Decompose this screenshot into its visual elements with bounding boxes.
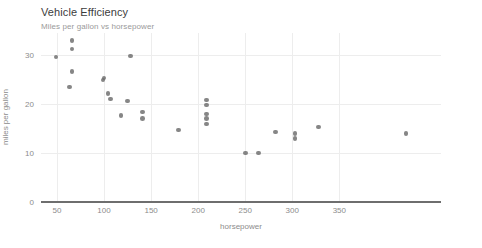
x-tick-label: 50	[53, 206, 62, 215]
data-point	[108, 97, 113, 102]
data-point	[128, 54, 133, 59]
data-point	[243, 151, 248, 156]
y-tick-label: 10	[25, 149, 34, 158]
gridline-horizontal	[41, 104, 441, 105]
data-point	[293, 136, 298, 141]
y-tick: 20	[34, 100, 43, 109]
data-point	[70, 69, 75, 74]
gridline-horizontal	[41, 55, 441, 56]
data-point	[273, 130, 278, 135]
data-point	[106, 91, 111, 96]
y-tick: 0	[34, 198, 38, 207]
plot-area	[41, 33, 441, 202]
data-point	[316, 125, 321, 130]
x-tick-label: 250	[239, 206, 252, 215]
data-point	[119, 113, 124, 118]
data-point	[204, 103, 209, 108]
data-point	[256, 151, 261, 156]
data-point	[140, 110, 145, 115]
data-point	[125, 99, 130, 104]
gridline-vertical	[198, 33, 199, 202]
x-tick-label: 350	[333, 206, 346, 215]
x-tick-label: 150	[144, 206, 157, 215]
x-tick-label: 300	[286, 206, 299, 215]
data-point	[204, 122, 209, 127]
gridline-vertical	[339, 33, 340, 202]
chart-subtitle: Miles per gallon vs horsepower	[41, 22, 154, 31]
gridline-vertical	[245, 33, 246, 202]
data-point	[140, 116, 145, 121]
x-tick-label: 100	[97, 206, 110, 215]
x-tick-label: 200	[191, 206, 204, 215]
data-point	[176, 128, 181, 133]
data-point	[204, 116, 209, 121]
data-point	[204, 98, 209, 103]
gridline-vertical	[151, 33, 152, 202]
y-tick: 10	[34, 149, 43, 158]
data-point	[204, 112, 209, 117]
data-point	[404, 131, 409, 136]
data-point	[70, 38, 75, 43]
y-tick: 30	[34, 51, 43, 60]
gridline-vertical	[292, 33, 293, 202]
x-axis-line	[41, 201, 441, 203]
data-point	[293, 131, 298, 136]
scatter-chart: Vehicle Efficiency Miles per gallon vs h…	[0, 0, 482, 248]
data-point	[67, 85, 72, 90]
x-axis-label: horsepower	[220, 222, 262, 231]
y-axis-label: miles per gallon	[1, 89, 10, 145]
data-point	[70, 47, 75, 52]
y-tick-label: 30	[25, 51, 34, 60]
y-tick-label: 0	[30, 198, 34, 207]
gridline-vertical	[104, 33, 105, 202]
chart-title: Vehicle Efficiency	[41, 6, 128, 18]
y-tick-label: 20	[25, 100, 34, 109]
gridline-horizontal	[41, 153, 441, 154]
